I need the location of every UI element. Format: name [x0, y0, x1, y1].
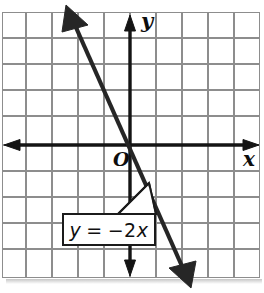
y-axis-arrow-down	[125, 260, 136, 276]
y-axis-label: y	[141, 8, 153, 33]
equation-coefficient: −2	[108, 219, 137, 241]
equation-callout-box: y=−2x	[62, 213, 156, 246]
line-arrow-upper-left	[62, 5, 88, 32]
origin-label: O	[113, 148, 130, 170]
graph-canvas	[0, 0, 264, 293]
x-axis-label: x	[243, 147, 255, 171]
callout-leader-fill	[123, 187, 154, 213]
equation-text: y=−2x	[70, 219, 149, 241]
graph-figure: y=−2x y x O	[0, 0, 264, 293]
y-axis-arrow-up	[125, 15, 136, 31]
line-arrow-lower-right	[169, 261, 196, 288]
equation-operator: =	[86, 219, 102, 241]
x-axis-arrow-left	[4, 140, 20, 151]
equation-lhs: y	[70, 219, 82, 241]
equation-variable: x	[137, 219, 149, 241]
